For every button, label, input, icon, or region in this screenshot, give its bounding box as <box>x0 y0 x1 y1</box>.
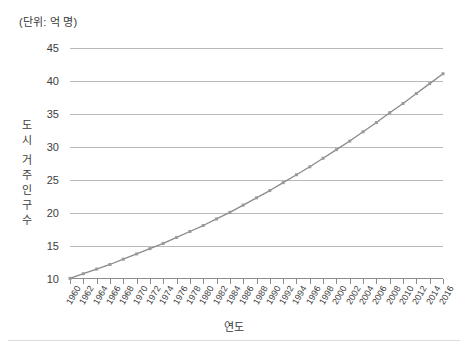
series-marker <box>95 268 98 271</box>
x-axis-tickmark <box>443 279 444 284</box>
series-marker <box>175 236 178 239</box>
series-marker <box>335 148 338 151</box>
series-marker <box>162 242 165 245</box>
series-marker <box>268 189 271 192</box>
series-marker <box>215 217 218 220</box>
series-marker <box>282 181 285 184</box>
y-axis-tick-label: 40 <box>47 75 59 87</box>
y-axis-tick-label: 25 <box>47 174 59 186</box>
y-axis-tick-label: 10 <box>47 273 59 285</box>
y-axis-tick-label: 20 <box>47 207 59 219</box>
series-marker <box>295 173 298 176</box>
series-marker <box>188 230 191 233</box>
y-axis-tick-label: 15 <box>47 240 59 252</box>
series-marker <box>322 157 325 160</box>
x-axis-title: 연도 <box>0 318 468 334</box>
series-marker <box>228 211 231 214</box>
y-axis-tick-label: 30 <box>47 141 59 153</box>
series-marker <box>375 121 378 124</box>
series-marker <box>82 272 85 275</box>
series-marker <box>388 111 391 114</box>
series-marker <box>148 247 151 250</box>
series-marker <box>308 165 311 168</box>
series-marker <box>415 92 418 95</box>
series-marker <box>242 204 245 207</box>
series-marker <box>402 102 405 105</box>
unit-caption: (단위: 억 명) <box>19 13 77 29</box>
series-marker <box>135 252 138 255</box>
series-marker <box>442 72 445 75</box>
series-marker <box>362 130 365 133</box>
series-polyline <box>70 74 443 279</box>
y-axis-tick-labels: 1015202530354045 <box>0 48 70 279</box>
series-marker <box>108 263 111 266</box>
series-marker <box>122 258 125 261</box>
chart-figure: (단위: 억 명) 도시거주인구수 1015202530354045 19601… <box>0 0 468 346</box>
series-marker <box>202 224 205 227</box>
series-marker <box>255 196 258 199</box>
series-marker <box>428 82 431 85</box>
series-marker <box>348 140 351 143</box>
y-axis-tick-label: 45 <box>47 42 59 54</box>
y-axis-tick-label: 35 <box>47 108 59 120</box>
plot-area <box>70 48 443 279</box>
series-line-urban-population <box>70 48 443 279</box>
footer-divider <box>8 340 460 341</box>
